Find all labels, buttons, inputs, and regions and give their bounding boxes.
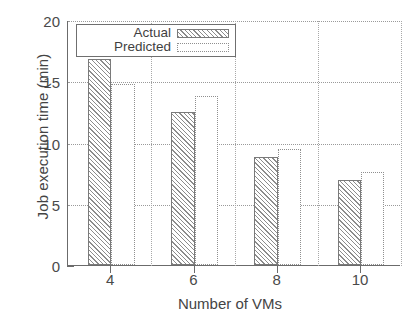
bar-predicted-10 <box>361 172 384 265</box>
y-axis-tick-label: 10 <box>30 135 60 152</box>
y-axis-tick-mark <box>67 266 74 267</box>
y-axis-tick-label: 20 <box>30 13 60 30</box>
group-separator <box>235 21 236 266</box>
bar-predicted-8 <box>278 149 301 265</box>
x-axis-tick-mark <box>360 266 361 273</box>
bar-actual-6 <box>171 112 194 265</box>
y-axis-tick-label: 0 <box>30 258 60 275</box>
bar-predicted-4 <box>111 84 134 265</box>
legend-entry-actual: Actual <box>77 26 235 40</box>
group-separator <box>151 21 152 266</box>
plot-area <box>67 21 400 266</box>
x-axis-tick-mark <box>194 266 195 273</box>
x-axis-title: Number of VMs <box>60 295 400 312</box>
bar-actual-8 <box>254 157 277 265</box>
legend-swatch-actual-icon <box>177 29 229 38</box>
bar-chart-figure: Job execution time (min) Number of VMs 0… <box>0 0 413 319</box>
x-axis-tick-label: 8 <box>257 271 297 288</box>
group-separator <box>401 21 402 266</box>
y-axis-tick-label: 15 <box>30 74 60 91</box>
bar-actual-10 <box>338 180 361 265</box>
legend-swatch-predicted-icon <box>177 43 229 52</box>
legend-label-predicted: Predicted <box>114 40 171 54</box>
bar-predicted-6 <box>195 96 218 265</box>
x-axis-tick-label: 10 <box>340 271 380 288</box>
x-axis-tick-mark <box>277 266 278 273</box>
chart-legend: Actual Predicted <box>76 24 236 57</box>
bar-actual-4 <box>88 59 111 265</box>
legend-label-actual: Actual <box>133 26 171 40</box>
y-axis-tick-label: 5 <box>30 196 60 213</box>
x-axis-tick-label: 6 <box>174 271 214 288</box>
legend-entry-predicted: Predicted <box>77 40 235 54</box>
x-axis-tick-mark <box>110 266 111 273</box>
x-axis-tick-label: 4 <box>90 271 130 288</box>
group-separator <box>318 21 319 266</box>
